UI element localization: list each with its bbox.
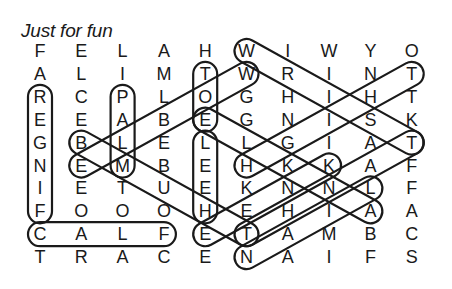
- grid-letter[interactable]: O: [190, 86, 220, 108]
- grid-letter[interactable]: F: [25, 40, 55, 62]
- grid-letter[interactable]: H: [273, 86, 303, 108]
- grid-letter[interactable]: A: [66, 223, 96, 245]
- grid-letter[interactable]: U: [149, 177, 179, 199]
- grid-letter[interactable]: A: [355, 155, 385, 177]
- grid-letter[interactable]: A: [397, 200, 427, 222]
- grid-letter[interactable]: E: [66, 109, 96, 131]
- grid-letter[interactable]: E: [190, 246, 220, 268]
- grid-letter[interactable]: E: [190, 155, 220, 177]
- grid-letter[interactable]: A: [273, 246, 303, 268]
- grid-letter[interactable]: H: [273, 200, 303, 222]
- grid-letter[interactable]: A: [108, 246, 138, 268]
- grid-letter[interactable]: I: [314, 86, 344, 108]
- grid-letter[interactable]: I: [314, 200, 344, 222]
- grid-letter[interactable]: I: [314, 63, 344, 85]
- grid-letter[interactable]: C: [66, 86, 96, 108]
- grid-letter[interactable]: W: [232, 40, 262, 62]
- grid-letter[interactable]: F: [397, 155, 427, 177]
- grid-letter[interactable]: O: [149, 200, 179, 222]
- grid-letter[interactable]: E: [190, 223, 220, 245]
- grid-letter[interactable]: F: [25, 200, 55, 222]
- grid-letter[interactable]: G: [273, 132, 303, 154]
- grid-letter[interactable]: Y: [355, 40, 385, 62]
- grid-letter[interactable]: A: [273, 223, 303, 245]
- grid-letter[interactable]: C: [25, 223, 55, 245]
- grid-letter[interactable]: L: [232, 132, 262, 154]
- grid-letter[interactable]: G: [232, 86, 262, 108]
- grid-letter[interactable]: B: [355, 223, 385, 245]
- grid-letter[interactable]: L: [149, 86, 179, 108]
- grid-letter[interactable]: N: [232, 246, 262, 268]
- grid-letter[interactable]: F: [355, 246, 385, 268]
- grid-letter[interactable]: O: [66, 200, 96, 222]
- grid-letter[interactable]: L: [66, 63, 96, 85]
- grid-letter[interactable]: H: [190, 40, 220, 62]
- grid-letter[interactable]: L: [108, 40, 138, 62]
- grid-letter[interactable]: I: [314, 246, 344, 268]
- grid-letter[interactable]: L: [190, 132, 220, 154]
- grid-letter[interactable]: T: [397, 132, 427, 154]
- grid-letter[interactable]: E: [66, 40, 96, 62]
- grid-letter[interactable]: N: [273, 177, 303, 199]
- grid-letter[interactable]: T: [25, 246, 55, 268]
- grid-letter[interactable]: A: [355, 200, 385, 222]
- grid-letter[interactable]: N: [314, 177, 344, 199]
- grid-letter[interactable]: R: [273, 63, 303, 85]
- grid-letter[interactable]: C: [397, 223, 427, 245]
- grid-letter[interactable]: T: [108, 177, 138, 199]
- grid-letter[interactable]: H: [355, 86, 385, 108]
- grid-letter[interactable]: N: [25, 155, 55, 177]
- grid-letter[interactable]: K: [273, 155, 303, 177]
- grid-letter[interactable]: S: [355, 109, 385, 131]
- grid-letter[interactable]: E: [66, 177, 96, 199]
- grid-letter[interactable]: A: [25, 63, 55, 85]
- grid-letter[interactable]: G: [25, 132, 55, 154]
- grid-letter[interactable]: T: [190, 63, 220, 85]
- grid-letter[interactable]: M: [314, 223, 344, 245]
- grid-letter[interactable]: H: [190, 200, 220, 222]
- grid-letter[interactable]: I: [314, 132, 344, 154]
- grid-letter[interactable]: P: [108, 86, 138, 108]
- grid-letter[interactable]: G: [232, 109, 262, 131]
- grid-letter[interactable]: E: [149, 132, 179, 154]
- grid-letter[interactable]: O: [397, 40, 427, 62]
- grid-letter[interactable]: M: [108, 155, 138, 177]
- grid-letter[interactable]: W: [232, 63, 262, 85]
- grid-letter[interactable]: N: [355, 63, 385, 85]
- grid-letter[interactable]: I: [25, 177, 55, 199]
- grid-letter[interactable]: E: [190, 177, 220, 199]
- grid-letter[interactable]: B: [149, 155, 179, 177]
- grid-letter[interactable]: E: [190, 109, 220, 131]
- grid-letter[interactable]: F: [397, 177, 427, 199]
- grid-letter[interactable]: A: [355, 132, 385, 154]
- grid-letter[interactable]: E: [232, 200, 262, 222]
- grid-letter[interactable]: C: [149, 246, 179, 268]
- grid-letter[interactable]: F: [149, 223, 179, 245]
- grid-letter[interactable]: E: [66, 155, 96, 177]
- grid-letter[interactable]: L: [108, 223, 138, 245]
- grid-letter[interactable]: L: [355, 177, 385, 199]
- grid-letter[interactable]: T: [397, 63, 427, 85]
- grid-letter[interactable]: R: [25, 86, 55, 108]
- grid-letter[interactable]: K: [397, 109, 427, 131]
- grid-letter[interactable]: M: [149, 63, 179, 85]
- grid-letter[interactable]: T: [232, 223, 262, 245]
- grid-letter[interactable]: K: [314, 155, 344, 177]
- grid-letter[interactable]: S: [397, 246, 427, 268]
- grid-letter[interactable]: B: [66, 132, 96, 154]
- grid-letter[interactable]: R: [66, 246, 96, 268]
- grid-letter[interactable]: K: [232, 177, 262, 199]
- grid-letter[interactable]: O: [108, 200, 138, 222]
- grid-letter[interactable]: B: [149, 109, 179, 131]
- grid-letter[interactable]: A: [108, 109, 138, 131]
- grid-letter[interactable]: T: [397, 86, 427, 108]
- grid-letter[interactable]: N: [273, 109, 303, 131]
- grid-letter[interactable]: A: [149, 40, 179, 62]
- grid-letter[interactable]: I: [108, 63, 138, 85]
- grid-letter[interactable]: I: [273, 40, 303, 62]
- grid-letter[interactable]: H: [232, 155, 262, 177]
- grid-letter[interactable]: I: [314, 109, 344, 131]
- grid-letter[interactable]: W: [314, 40, 344, 62]
- grid-letter[interactable]: E: [25, 109, 55, 131]
- grid-letter[interactable]: L: [108, 132, 138, 154]
